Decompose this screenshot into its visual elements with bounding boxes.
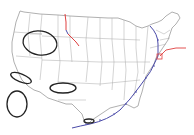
ellipse-nevada-utah [21,28,59,58]
front-west [65,14,79,46]
us-weather-map [0,0,194,135]
state-borders [14,14,170,100]
us-outline [12,11,180,124]
ellipse-new-mexico-texas [50,83,76,93]
ellipse-pacific-offshore [7,91,27,117]
ellipse-texas-gulf [84,119,94,123]
